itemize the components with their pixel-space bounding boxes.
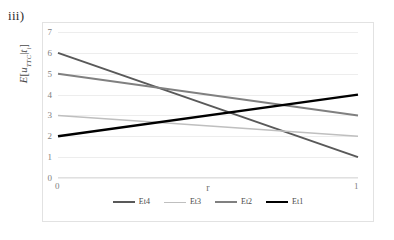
legend-item-et1[interactable]: Et1 — [266, 198, 303, 206]
legend-label-et4: Et4 — [139, 198, 150, 206]
series-line-et4 — [58, 53, 358, 157]
chart-legend: Et4Et3Et2Et1 — [42, 198, 374, 206]
series-lines — [58, 32, 358, 178]
y-axis-title-bracket-close: ] — [17, 44, 29, 48]
y-axis-tick-label: 2 — [26, 132, 52, 141]
series-line-et2 — [58, 74, 358, 116]
series-line-et1 — [58, 95, 358, 137]
gridline — [58, 178, 358, 179]
y-axis-tick-label: 5 — [26, 70, 52, 79]
y-axis-tick-label: 3 — [26, 111, 52, 120]
legend-item-et4[interactable]: Et4 — [113, 198, 150, 206]
x-axis-title: r — [58, 182, 358, 193]
legend-item-et3[interactable]: Et3 — [164, 198, 201, 206]
series-line-et3 — [58, 115, 358, 136]
y-axis-tick-label: 7 — [26, 28, 52, 37]
y-axis-tick-label: 1 — [26, 153, 52, 162]
legend-swatch-et3 — [164, 202, 186, 203]
legend-label-et2: Et2 — [241, 198, 252, 206]
legend-swatch-et1 — [266, 201, 288, 203]
legend-swatch-et2 — [215, 201, 237, 203]
legend-item-et2[interactable]: Et2 — [215, 198, 252, 206]
plot-area: 01234567 0 1 r — [58, 32, 358, 178]
legend-swatch-et4 — [113, 201, 135, 203]
y-axis-tick-label: 4 — [26, 91, 52, 100]
y-axis-tick-label: 0 — [26, 174, 52, 183]
legend-label-et1: Et1 — [292, 198, 303, 206]
legend-label-et3: Et3 — [190, 198, 201, 206]
y-axis-tick-label: 6 — [26, 49, 52, 58]
